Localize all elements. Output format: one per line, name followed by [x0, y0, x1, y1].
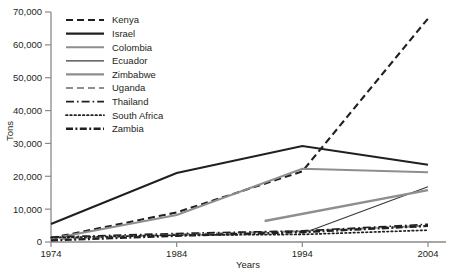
series-line-zimbabwe	[265, 190, 428, 221]
legend-label-thailand: Thailand	[112, 96, 148, 107]
legend-label-colombia: Colombia	[112, 42, 153, 53]
x-axis-ticks	[51, 242, 428, 247]
y-tick-label: 10,000	[13, 204, 42, 215]
y-tick-label: 20,000	[13, 171, 42, 182]
chart-page: 010,00020,00030,00040,00050,00060,00070,…	[0, 0, 457, 279]
x-tick-labels: 1974198419942004	[40, 248, 438, 259]
x-tick-label: 1994	[292, 248, 313, 259]
series-line-south-africa	[51, 230, 428, 238]
y-tick-labels: 010,00020,00030,00040,00050,00060,00070,…	[13, 6, 42, 247]
legend: KenyaIsraelColombiaEcuadorZimbabweUganda…	[66, 14, 164, 134]
y-tick-label: 70,000	[13, 6, 42, 17]
y-tick-label: 30,000	[13, 138, 42, 149]
legend-label-zambia: Zambia	[112, 123, 144, 134]
x-axis-title: Years	[236, 259, 260, 270]
y-tick-label: 40,000	[13, 105, 42, 116]
x-tick-label: 1974	[40, 248, 61, 259]
legend-label-south-africa: South Africa	[112, 110, 164, 121]
y-tick-label: 60,000	[13, 39, 42, 50]
x-tick-label: 2004	[417, 248, 438, 259]
legend-label-ecuador: Ecuador	[112, 55, 147, 66]
y-axis-ticks	[45, 12, 51, 242]
series-lines	[51, 19, 428, 241]
series-line-kenya	[51, 19, 428, 238]
legend-label-uganda: Uganda	[112, 82, 146, 93]
legend-label-israel: Israel	[112, 28, 135, 39]
legend-label-zimbabwe: Zimbabwe	[112, 69, 156, 80]
x-tick-label: 1984	[166, 248, 187, 259]
series-line-israel	[51, 146, 428, 224]
line-chart: 010,00020,00030,00040,00050,00060,00070,…	[0, 0, 457, 279]
y-axis-title: Tons	[4, 121, 15, 141]
axis-group	[45, 12, 446, 247]
legend-label-kenya: Kenya	[112, 14, 140, 25]
y-tick-label: 0	[37, 236, 42, 247]
y-tick-label: 50,000	[13, 72, 42, 83]
